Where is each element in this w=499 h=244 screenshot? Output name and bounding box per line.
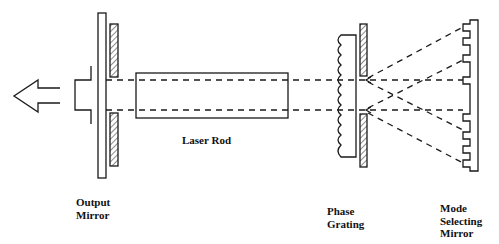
mode-mirror-label-line1: Mode: [440, 202, 482, 215]
phase-grating: [338, 35, 356, 157]
mode-mirror-label-line2: Selecting: [440, 215, 482, 228]
output-mirror-label-line2: Mirror: [76, 209, 110, 222]
laser-rod-label: Laser Rod: [182, 134, 231, 147]
output-beam-profile: [75, 66, 91, 124]
output-mirror-label-line1: Output: [76, 196, 110, 209]
mode-selecting-mirror-label: Mode Selecting Mirror: [440, 202, 482, 240]
output-mirror-label: Output Mirror: [76, 196, 110, 221]
laser-resonator-diagram: [0, 0, 499, 244]
beam-lines-diffracted: [368, 27, 463, 163]
right-aperture: [360, 24, 367, 167]
phase-grating-label-line2: Grating: [327, 218, 364, 231]
mode-selecting-mirror: [463, 20, 478, 171]
output-arrow-icon: [14, 80, 60, 112]
left-aperture: [110, 24, 118, 166]
phase-grating-label: Phase Grating: [327, 205, 364, 230]
phase-grating-label-line1: Phase: [327, 205, 364, 218]
laser-rod-label-text: Laser Rod: [182, 134, 231, 147]
mode-mirror-label-line3: Mirror: [440, 227, 482, 240]
output-mirror: [98, 13, 106, 178]
beam-lines-horizontal: [106, 80, 463, 110]
